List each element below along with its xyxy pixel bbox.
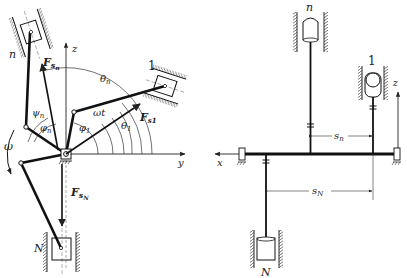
rod-N xyxy=(21,163,61,248)
label-force-sN: FsN xyxy=(70,186,89,201)
engine-crank-diagram: n 1 N z y ω ωt θn θ1 φ1 φn ψn Fsn Fs1 Fs… xyxy=(0,0,407,278)
slider-N xyxy=(43,228,80,276)
crank-pin-1 xyxy=(72,110,76,114)
label-force-sn: Fsn xyxy=(42,56,60,71)
label-z-right: z xyxy=(392,78,398,88)
force-vector-sn xyxy=(42,64,58,150)
label-z-axis: z xyxy=(71,43,78,54)
cylinder-n xyxy=(293,12,328,154)
crank-arm-1 xyxy=(66,112,74,154)
label-x-axis: x xyxy=(217,157,223,168)
right-view: n 1 N z x sn sN xyxy=(215,1,401,278)
label-N-right: N xyxy=(260,266,271,278)
label-psi-n: ψn xyxy=(32,107,45,120)
label-n-right: n xyxy=(306,1,313,14)
bearing-left-icon xyxy=(237,148,246,165)
label-theta-1: θ1 xyxy=(121,120,132,133)
label-theta-n: θn xyxy=(100,73,111,86)
label-omega: ω xyxy=(4,140,13,153)
cylinder-N xyxy=(250,154,283,268)
label-n: n xyxy=(9,48,16,61)
crank-arm-N xyxy=(21,154,66,163)
bearing-right-icon xyxy=(392,148,401,165)
label-N: N xyxy=(33,242,44,255)
label-phi-n: φn xyxy=(40,122,52,135)
label-phi-1: φ1 xyxy=(79,122,90,135)
label-force-s1: Fs1 xyxy=(139,111,157,125)
cylinder-1 xyxy=(358,66,388,154)
crank-pin-N xyxy=(19,161,23,165)
left-view: n 1 N z y ω ωt θn θ1 φ1 φn ψn Fsn Fs1 Fs… xyxy=(4,6,191,276)
rod-n xyxy=(26,32,30,127)
label-y-axis: y xyxy=(177,157,184,168)
label-omega-t: ωt xyxy=(93,107,106,118)
label-1-right: 1 xyxy=(368,54,376,68)
crank-pin-n xyxy=(24,125,28,129)
label-1: 1 xyxy=(148,59,156,73)
